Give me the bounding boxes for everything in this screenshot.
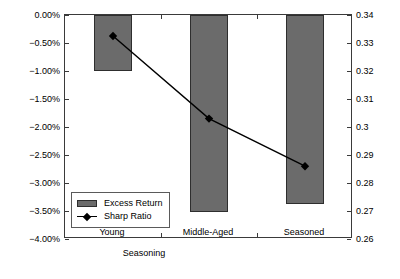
right-tick-label: 0.34	[356, 10, 374, 20]
left-tick-label: −3.50%	[29, 206, 60, 216]
right-tick-label: 0.31	[356, 94, 374, 104]
left-tick-label: −4.00%	[29, 234, 60, 244]
legend-item-excess-return: Excess Return	[77, 197, 163, 210]
right-tick-label: 0.29	[356, 150, 374, 160]
chart-legend: Excess Return Sharp Ratio	[71, 192, 170, 228]
data-point-marker	[301, 162, 309, 170]
left-tick-label: −0.50%	[29, 38, 60, 48]
sharp-ratio-line	[113, 36, 305, 166]
bar-swatch-icon	[77, 200, 97, 207]
right-tick-label: 0.28	[356, 178, 374, 188]
right-tick-label: 0.33	[356, 38, 374, 48]
x-category-label: Young	[99, 227, 124, 237]
tick-mark	[65, 239, 69, 240]
left-tick-label: 0.00%	[34, 10, 60, 20]
tick-mark	[347, 239, 351, 240]
right-tick-label: 0.32	[356, 66, 374, 76]
left-tick-label: −2.50%	[29, 150, 60, 160]
left-tick-label: −1.50%	[29, 94, 60, 104]
legend-item-sharp-ratio: Sharp Ratio	[77, 210, 163, 223]
x-axis-title: Seasoning	[123, 248, 166, 258]
x-category-label: Middle-Aged	[183, 227, 234, 237]
plot-area: 0.00%−0.50%−1.00%−1.50%−2.00%−2.50%−3.00…	[64, 14, 352, 238]
x-category-label: Seasoned	[284, 227, 325, 237]
right-tick-label: 0.26	[356, 234, 374, 244]
sharp-ratio-markers	[109, 32, 309, 171]
line-diamond-swatch-icon	[77, 213, 97, 220]
legend-label-excess-return: Excess Return	[104, 199, 163, 208]
left-tick-label: −3.00%	[29, 178, 60, 188]
left-tick-label: −1.00%	[29, 66, 60, 76]
right-tick-label: 0.27	[356, 206, 374, 216]
left-tick-label: −2.00%	[29, 122, 60, 132]
legend-label-sharp-ratio: Sharp Ratio	[104, 212, 152, 221]
right-tick-label: 0.3	[356, 122, 369, 132]
chart-figure: Excess Return (Annual) Sharp Ratio Seaso…	[0, 0, 400, 279]
